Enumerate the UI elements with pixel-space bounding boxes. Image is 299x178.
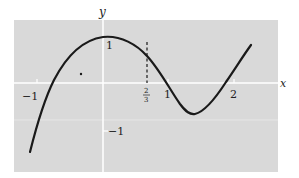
x-tick-label-neg1: −1 [22, 90, 38, 103]
y-axis-label: y [98, 5, 106, 19]
marked-point [80, 73, 82, 75]
x-tick-label-1: 1 [164, 88, 171, 101]
function-graph: y x −1 1 2 2 3 1 −1 [0, 0, 299, 178]
x-tick-label-frac-num: 2 [144, 87, 148, 95]
x-axis-label: x [280, 77, 287, 90]
y-tick-label-1: 1 [106, 39, 113, 52]
y-tick-label-neg1: −1 [108, 125, 124, 138]
x-tick-label-2: 2 [230, 88, 237, 101]
x-tick-label-frac-den: 3 [144, 96, 148, 104]
